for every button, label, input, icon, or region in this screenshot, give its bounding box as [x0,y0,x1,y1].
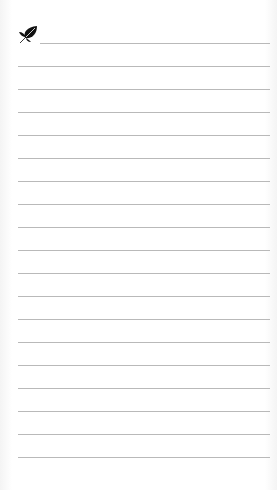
ruled-line [18,66,270,67]
ruled-line [18,204,270,205]
ruled-line [18,434,270,435]
ruled-line [18,411,270,412]
notepad-page [0,0,277,490]
ruled-line [40,43,270,44]
leaf-icon [17,24,41,44]
ruled-line [18,227,270,228]
ruled-line [18,342,270,343]
ruled-line [18,273,270,274]
ruled-line [18,457,270,458]
ruled-line [18,388,270,389]
ruled-line [18,158,270,159]
ruled-line [18,112,270,113]
ruled-line [18,365,270,366]
ruled-line [18,135,270,136]
ruled-line [18,296,270,297]
ruled-line [18,319,270,320]
ruled-line [18,181,270,182]
ruled-line [18,89,270,90]
ruled-line [18,250,270,251]
